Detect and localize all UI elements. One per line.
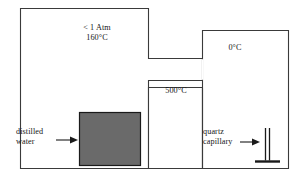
- hot-chamber-outline: [149, 88, 203, 169]
- pressure-label-line2: 160°C: [86, 33, 108, 42]
- quartz-capillary-label-line1: quartz: [203, 127, 224, 136]
- quartz-capillary-label-line2: capillary: [203, 137, 233, 146]
- pressure-label-line1: < 1 Atm: [83, 23, 111, 32]
- cold-zone-label: 0°C: [213, 43, 257, 53]
- apparatus-diagram: < 1 Atm160°C 0°C 500°C distilledwater qu…: [0, 0, 306, 180]
- distilled-water-label: distilledwater: [16, 127, 62, 147]
- distilled-water-label-line1: distilled: [16, 127, 43, 136]
- quartz-capillary-label: quartzcapillary: [203, 127, 251, 147]
- pressure-label: < 1 Atm160°C: [66, 23, 128, 43]
- distilled-water-block: [80, 113, 141, 166]
- hot-zone-label: 500°C: [152, 86, 200, 96]
- distilled-water-label-line2: water: [16, 137, 35, 146]
